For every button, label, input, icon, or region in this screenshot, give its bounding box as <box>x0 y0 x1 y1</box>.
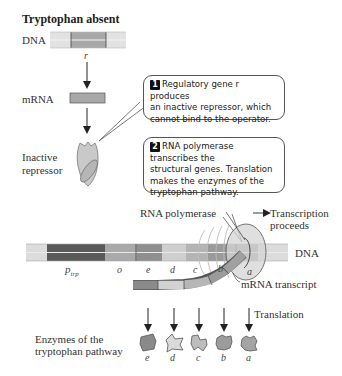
label-proceeds: proceeds <box>270 219 309 231</box>
enzyme-c <box>191 335 207 351</box>
label-mrna-transcript: mRNA transcript <box>241 278 316 290</box>
label-dna-top: DNA <box>22 34 46 46</box>
enzyme-shapes <box>140 334 257 352</box>
enzyme-e <box>140 334 156 351</box>
enzyme-label-e: e <box>145 352 149 363</box>
enzyme-a <box>241 336 257 351</box>
callout-1-pointer <box>99 102 146 141</box>
callout-1-number: 1 <box>150 80 160 90</box>
label-rna-polymerase: RNA polymerase <box>140 207 216 219</box>
label-gene-o: o <box>117 264 122 275</box>
label-enzymes-2: tryptophan pathway <box>35 345 123 357</box>
enzyme-label-b: b <box>221 352 226 363</box>
top-dna <box>50 32 126 48</box>
enzyme-label-a: a <box>246 352 251 363</box>
callout-2-number: 2 <box>150 142 160 152</box>
label-transcription: Transcription <box>270 207 329 219</box>
enzyme-label-c: c <box>196 352 200 363</box>
label-gene-a: a <box>247 266 252 277</box>
label-gene-d: d <box>170 264 175 275</box>
callout-2: 2RNA polymerase transcribes the structur… <box>143 137 285 193</box>
label-gene-e: e <box>146 264 150 275</box>
label-gene-b: b <box>218 263 223 274</box>
enzyme-b <box>216 335 232 350</box>
label-repressor: repressor <box>22 164 62 176</box>
repressor-shape <box>77 142 100 186</box>
label-translation: Translation <box>254 308 304 320</box>
enzyme-label-d: d <box>170 352 175 363</box>
label-gene-c: c <box>193 264 197 275</box>
translation-arrows <box>148 308 249 328</box>
callout-1: 1Regulatory gene r produces an inactive … <box>143 75 285 120</box>
label-enzymes-1: Enzymes of the <box>35 333 103 345</box>
label-promoter: ptrp <box>65 263 79 278</box>
rna-polymerase <box>226 224 266 280</box>
label-dna-main: DNA <box>295 247 319 259</box>
label-gene-r: r <box>84 50 88 61</box>
mrna-bar <box>70 93 105 103</box>
enzyme-d <box>166 334 183 352</box>
label-mrna: mRNA <box>22 93 54 105</box>
label-inactive: Inactive <box>22 151 57 163</box>
